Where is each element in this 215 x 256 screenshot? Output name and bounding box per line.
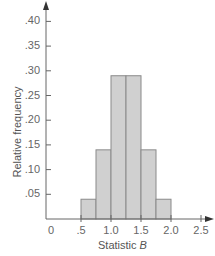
histogram-bar: [126, 76, 141, 219]
y-tick-label: .35: [10, 40, 40, 51]
x-tick-label: 2.5: [186, 225, 215, 236]
histogram-chart: .05.10.15.20.25.30.35.40 0.51.01.52.02.5…: [0, 0, 215, 256]
histogram-bar: [111, 76, 126, 219]
y-tick-label: .30: [10, 65, 40, 76]
histogram-bars: [81, 76, 171, 219]
histogram-bar: [156, 199, 171, 219]
histogram-bar: [96, 150, 111, 219]
y-axis-arrow-icon: [43, 1, 49, 10]
histogram-bar: [81, 199, 96, 219]
x-axis-label: Statistic B: [98, 239, 147, 251]
y-axis-label: Relative frequency: [11, 77, 23, 187]
y-tick-label: .05: [10, 188, 40, 199]
x-axis-label-variable: B: [140, 239, 147, 251]
x-tick-label: 1.0: [96, 225, 126, 236]
x-tick-label: 0: [36, 225, 66, 236]
histogram-bar: [141, 150, 156, 219]
x-axis-arrow-icon: [205, 216, 214, 222]
x-tick-label: .5: [66, 225, 96, 236]
x-tick-label: 1.5: [126, 225, 156, 236]
y-tick-label: .40: [10, 15, 40, 26]
x-tick-label: 2.0: [156, 225, 186, 236]
x-axis-label-text: Statistic: [98, 239, 140, 251]
